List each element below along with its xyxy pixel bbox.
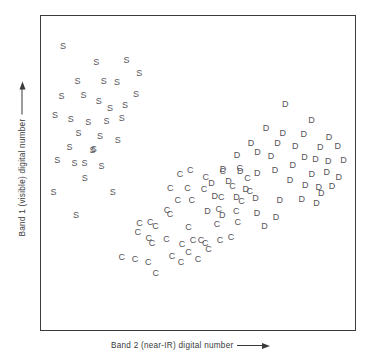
data-point-d: D [287,175,294,184]
data-point-d: D [274,139,281,148]
data-point-s: S [75,128,81,137]
data-point-s: S [81,159,87,168]
data-point-c: C [218,192,225,201]
data-point-c: C [135,228,142,237]
data-point-c: C [167,183,174,192]
data-point-d: D [292,141,299,150]
data-point-s: S [136,68,142,77]
data-point-d: D [254,209,261,218]
data-point-d: D [273,213,280,222]
data-point-d: D [248,139,255,148]
data-point-d: D [323,167,330,176]
data-point-s: S [133,90,139,99]
data-point-d: D [317,143,324,152]
data-point-d: D [211,191,218,200]
data-point-c: C [234,217,241,226]
data-point-s: S [54,156,60,165]
data-point-d: D [204,206,211,215]
data-point-c: C [145,258,152,267]
data-point-c: C [201,185,208,194]
data-point-d: D [254,169,261,178]
data-point-s: S [85,117,91,126]
data-point-d: D [252,194,259,203]
x-axis-label: Band 2 (near-IR) digital number [111,341,271,350]
data-point-d: D [313,198,320,207]
data-point-d: D [298,194,305,203]
data-point-c: C [169,251,176,260]
data-point-s: S [82,174,88,183]
data-point-s: S [67,143,73,152]
data-point-d: D [279,128,286,137]
x-axis-label-text: Band 2 (near-IR) digital number [111,341,233,350]
data-point-d: D [312,155,319,164]
data-point-c: C [190,236,197,245]
data-point-d: D [219,211,226,220]
data-point-d: D [329,181,336,190]
data-point-s: S [91,145,97,154]
data-point-s: S [50,188,56,197]
data-point-d: D [234,151,241,160]
data-point-c: C [195,254,202,263]
data-point-d: D [290,161,297,170]
data-point-c: C [214,220,221,229]
data-point-d: D [208,178,215,187]
data-point-s: S [60,42,66,51]
data-point-s: S [123,55,129,64]
data-point-c: C [132,254,139,263]
data-point-d: D [326,133,333,142]
data-point-d: D [282,100,289,109]
data-point-d: D [263,124,270,133]
data-point-c: C [205,245,212,254]
data-point-d: D [302,180,309,189]
data-point-c: C [179,239,186,248]
data-point-c: C [163,234,170,243]
data-point-d: D [340,155,347,164]
data-point-d: D [233,193,240,202]
data-point-s: S [103,117,109,126]
data-point-c: C [185,222,192,231]
data-point-s: S [72,159,78,168]
data-point-s: S [114,78,120,87]
data-point-c: C [184,184,191,193]
data-point-d: D [301,152,308,161]
y-axis-label: Band 1 (visible) digital number [18,77,27,237]
data-point-c: C [174,196,181,205]
data-point-c: C [152,221,159,230]
data-point-c: C [187,166,194,175]
data-point-s: S [97,132,103,141]
plot-area: SSSSSSSSSSSSSSSSSSSSSSSSSSSSSSSSCCCCCCCC… [40,15,356,331]
data-point-s: S [68,115,74,124]
scatter-plot-figure: SSSSSSSSSSSSSSSSSSSSSSSSSSSSSSSSCCCCCCCC… [0,0,374,357]
data-point-c: C [188,196,195,205]
data-point-d: D [261,222,268,231]
data-point-c: C [228,233,235,242]
data-point-s: S [101,77,107,86]
data-point-s: S [115,136,121,145]
data-point-d: D [335,142,342,151]
data-point-d: D [335,172,342,181]
data-point-d: D [237,166,244,175]
data-point-s: S [110,188,116,197]
data-point-d: D [225,176,232,185]
data-point-d: D [220,165,227,174]
data-point-s: S [93,57,99,66]
data-point-c: C [217,235,224,244]
data-point-c: C [178,257,185,266]
data-point-c: C [185,247,192,256]
data-point-c: C [167,209,174,218]
data-point-d: D [276,195,283,204]
data-point-s: S [81,90,87,99]
data-point-s: S [73,210,79,219]
data-point-c: C [244,174,251,183]
data-point-s: S [107,104,113,113]
data-point-s: S [52,110,58,119]
data-point-s: S [122,101,128,110]
data-point-d: D [318,188,325,197]
right-arrow-icon [237,342,271,349]
data-point-d: D [325,157,332,166]
data-point-s: S [119,114,125,123]
data-point-d: D [268,152,275,161]
up-arrow-icon [19,81,26,115]
data-point-d: D [308,115,315,124]
data-point-d: D [272,166,279,175]
